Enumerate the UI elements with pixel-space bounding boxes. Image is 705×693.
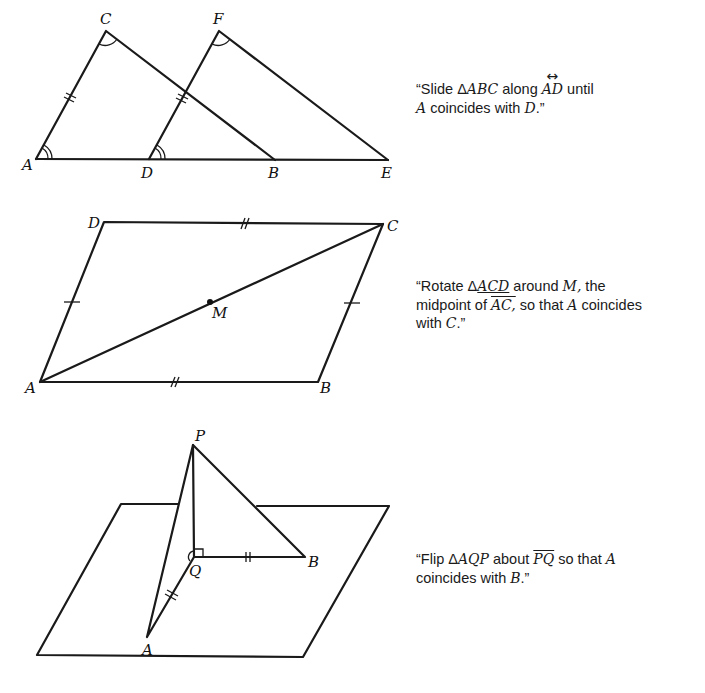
label-d: D bbox=[140, 164, 153, 182]
point-name: A bbox=[416, 100, 426, 116]
triangle-apq bbox=[147, 445, 194, 637]
caption-text: coincides with bbox=[416, 570, 510, 586]
triangle-def bbox=[149, 31, 388, 160]
label-b: B bbox=[267, 164, 279, 182]
label-b: B bbox=[319, 379, 331, 397]
caption-text: Slide bbox=[421, 81, 457, 97]
segment-ac-notation: AC, bbox=[491, 297, 516, 313]
triangle-name: ABC bbox=[467, 81, 498, 97]
transformations-figure: A C D F B E D C A B M bbox=[0, 0, 705, 693]
caption-text: so that bbox=[516, 297, 568, 313]
caption-flip-line-1: “Flip ΔAQP about PQ so that A bbox=[416, 550, 616, 569]
caption-flip-line-2: coincides with B.” bbox=[416, 569, 616, 588]
quote: .” bbox=[536, 100, 545, 116]
triangle-bpq bbox=[193, 445, 305, 557]
point-name: D bbox=[524, 100, 535, 116]
caption-rotate: “Rotate ΔACD around M, the midpoint of A… bbox=[416, 277, 642, 333]
label-a: A bbox=[20, 156, 33, 174]
triangle-symbol-icon: Δ bbox=[457, 81, 467, 97]
caption-text: coincides bbox=[577, 297, 641, 313]
point-name: M, bbox=[563, 278, 582, 294]
caption-text: Rotate bbox=[421, 278, 468, 294]
triangle-name: AQP bbox=[458, 551, 489, 567]
triangle-name: ACD bbox=[477, 278, 509, 294]
point-name: A bbox=[606, 551, 616, 567]
caption-rotate-line-3: with C.” bbox=[416, 314, 642, 333]
line-ad-notation: AD bbox=[542, 80, 563, 99]
label-b: B bbox=[307, 553, 319, 571]
caption-slide-line-1: “Slide ΔABC along AD until bbox=[416, 80, 594, 99]
slide-diagram: A C D F B E D C A B M bbox=[0, 0, 705, 693]
caption-slide: “Slide ΔABC along AD until A coincides w… bbox=[416, 80, 594, 117]
label-d: D bbox=[87, 214, 100, 232]
label-e: E bbox=[380, 164, 392, 182]
caption-text: so that bbox=[554, 551, 606, 567]
caption-text: with bbox=[416, 315, 446, 331]
label-f: F bbox=[212, 10, 224, 28]
label-c: C bbox=[100, 10, 112, 28]
plane bbox=[37, 504, 389, 657]
caption-text: coincides with bbox=[426, 100, 524, 116]
label-c: C bbox=[387, 217, 399, 235]
point-name: A bbox=[567, 297, 577, 313]
base-line-ae bbox=[36, 159, 388, 160]
caption-flip: “Flip ΔAQP about PQ so that A coincides … bbox=[416, 550, 616, 587]
caption-text: midpoint of bbox=[416, 297, 491, 313]
segment-pq-notation: PQ bbox=[533, 551, 554, 567]
triangle-symbol-icon: Δ bbox=[468, 278, 478, 294]
point-name: B bbox=[510, 570, 520, 586]
caption-text: along bbox=[498, 81, 542, 97]
point-name: C bbox=[446, 315, 457, 331]
label-m: M bbox=[211, 304, 228, 322]
label-q: Q bbox=[189, 562, 201, 580]
caption-rotate-line-2: midpoint of AC, so that A coincides bbox=[416, 296, 642, 315]
label-p: P bbox=[194, 427, 206, 445]
caption-text: around bbox=[509, 278, 562, 294]
quote: .” bbox=[457, 315, 466, 331]
label-a: A bbox=[140, 641, 153, 659]
caption-text: the bbox=[581, 278, 605, 294]
caption-text: until bbox=[563, 81, 594, 97]
caption-rotate-line-1: “Rotate ΔACD around M, the bbox=[416, 277, 642, 296]
caption-text: Flip bbox=[421, 551, 448, 567]
quote: .” bbox=[521, 570, 530, 586]
triangle-symbol-icon: Δ bbox=[448, 551, 458, 567]
right-angle-mark-icon bbox=[194, 549, 203, 557]
label-a: A bbox=[23, 379, 36, 397]
caption-slide-line-2: A coincides with D.” bbox=[416, 99, 594, 118]
caption-text: about bbox=[489, 551, 533, 567]
